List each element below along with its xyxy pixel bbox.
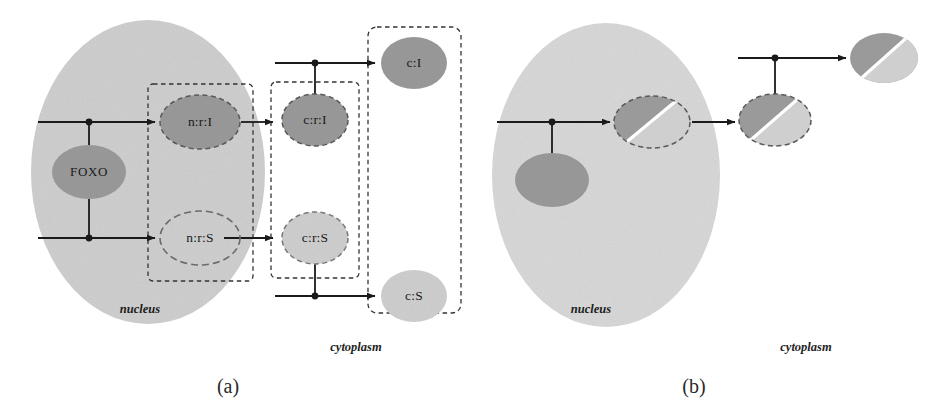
node-c-r-I-label: c:r:I [303, 112, 327, 127]
node-c-I-label: c:I [407, 55, 422, 70]
panel-a: FOXO n:r:I n:r:S c:r:I c:r:S c:I [31, 20, 461, 398]
junction-dot [86, 119, 93, 126]
junction-dot [312, 293, 319, 300]
node-nuclear-foxo-b[interactable] [515, 153, 589, 207]
node-n-r-S-label: n:r:S [186, 230, 213, 245]
edge-crI-to-cI [275, 60, 375, 95]
cytoplasm-label-b: cytoplasm [780, 340, 832, 354]
nucleus-label-a: nucleus [120, 302, 160, 316]
junction-dot [549, 119, 556, 126]
junction-dot [312, 60, 319, 67]
nucleus-label-b: nucleus [571, 302, 611, 316]
signalling-pathway-diagram: FOXO n:r:I n:r:S c:r:I c:r:S c:I [0, 0, 939, 417]
node-c-r-S-label: c:r:S [302, 230, 329, 245]
node-free-ligand-split[interactable] [848, 22, 922, 90]
node-c-I[interactable]: c:I [381, 37, 447, 89]
node-foxo-label: FOXO [70, 164, 108, 179]
junction-dot [86, 235, 93, 242]
node-n-r-I-label: n:r:I [188, 114, 213, 129]
node-c-S[interactable]: c:S [381, 270, 447, 322]
figure-root: FOXO n:r:I n:r:S c:r:I c:r:S c:I [0, 0, 939, 417]
panel-b: nucleus cytoplasm (b) [492, 22, 922, 398]
node-c-r-I[interactable]: c:r:I [282, 94, 348, 146]
junction-dot [772, 55, 779, 62]
panel-caption-b: (b) [682, 375, 705, 398]
node-n-r-I[interactable]: n:r:I [160, 95, 240, 149]
edge-cytoplasmic-to-free [738, 55, 846, 94]
node-c-r-S[interactable]: c:r:S [282, 212, 348, 264]
node-cytoplasmic-complex-split[interactable] [737, 82, 815, 152]
node-foxo[interactable]: FOXO [52, 145, 126, 199]
panel-caption-a: (a) [217, 375, 239, 398]
edge-crS-to-cS [275, 264, 375, 299]
node-c-S-label: c:S [405, 288, 423, 303]
cytoplasm-label-a: cytoplasm [330, 340, 382, 354]
